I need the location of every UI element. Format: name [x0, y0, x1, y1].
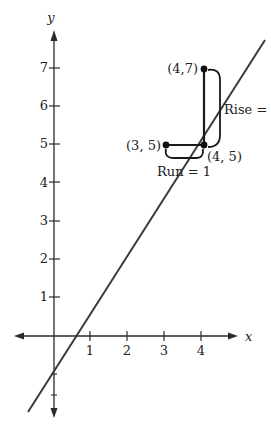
x-tick-1: 1: [86, 343, 94, 358]
x-axis-left-arrow-icon: [14, 333, 24, 340]
y-axis: 7 6 5 4 3 2 1 y: [40, 10, 60, 418]
y-tick-2: 2: [40, 251, 48, 266]
x-axis-right-arrow-icon: [228, 333, 238, 340]
y-tick-1: 1: [40, 289, 48, 304]
chart-canvas: 1 2 3 4 x 7 6 5 4 3 2 1 y: [0, 0, 271, 426]
label-point-4-7: (4,7): [167, 61, 198, 76]
y-tick-3: 3: [40, 213, 48, 228]
x-tick-2: 2: [123, 343, 131, 358]
rise-brace: [208, 70, 220, 147]
rise-run-triangle: [166, 69, 204, 145]
point-4-7: [201, 66, 208, 73]
y-tick-4: 4: [40, 175, 48, 190]
slope-figure: 1 2 3 4 x 7 6 5 4 3 2 1 y: [0, 0, 271, 426]
x-tick-3: 3: [160, 343, 168, 358]
x-tick-4: 4: [197, 343, 205, 358]
y-axis-label: y: [46, 10, 55, 25]
label-point-4-5: (4, 5): [207, 149, 242, 164]
plotted-line: [28, 40, 265, 412]
label-point-3-5: (3, 5): [126, 138, 161, 153]
y-tick-5: 5: [40, 136, 48, 151]
y-axis-up-arrow-icon: [51, 30, 58, 41]
run-brace: [166, 149, 203, 158]
x-axis-label: x: [245, 329, 253, 344]
point-3-5: [163, 142, 170, 149]
y-tick-6: 6: [40, 98, 48, 113]
run-label: Run = 1: [157, 164, 211, 179]
y-tick-7: 7: [40, 60, 48, 75]
x-axis: 1 2 3 4 x: [14, 329, 253, 358]
point-4-5: [201, 142, 208, 149]
rise-label: Rise = 2: [224, 102, 271, 117]
y-axis-down-arrow-icon: [51, 408, 58, 418]
